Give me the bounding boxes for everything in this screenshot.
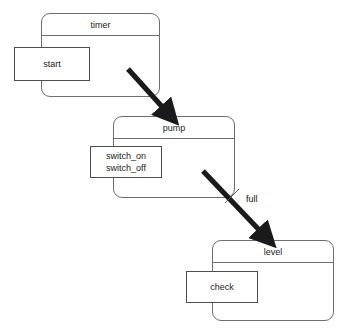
component-state-diagram: timer start pump switch_on switch_off le…	[0, 0, 351, 336]
state-divider-pump	[114, 138, 234, 139]
port-label-check: check	[210, 281, 234, 293]
state-title-pump: pump	[114, 123, 234, 133]
port-box-check[interactable]: check	[186, 271, 258, 303]
state-title-timer: timer	[42, 20, 159, 30]
port-box-switch[interactable]: switch_on switch_off	[90, 146, 162, 178]
edge-label-full: full	[246, 194, 258, 204]
state-title-level: level	[213, 247, 333, 257]
port-label-switch-off: switch_off	[106, 162, 146, 174]
port-label-switch-on: switch_on	[106, 150, 146, 162]
state-divider-level	[213, 262, 333, 263]
port-box-start[interactable]: start	[14, 47, 90, 81]
port-label-start: start	[43, 58, 61, 70]
state-divider-timer	[42, 35, 159, 36]
